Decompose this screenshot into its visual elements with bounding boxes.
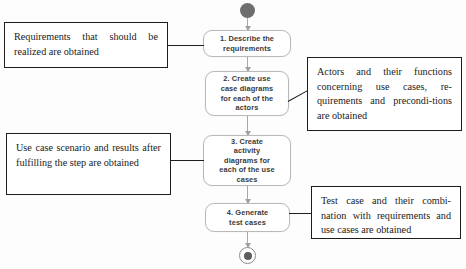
annotation-note-1-text: Requirements that should be realized are…	[14, 30, 158, 59]
initial-node-icon	[240, 3, 255, 18]
annotation-note-1: Requirements that should be realized are…	[4, 22, 168, 68]
activity-node-2[interactable]: 2. Create use case diagrams for each of …	[205, 71, 289, 116]
annotation-note-4-text: Test case and their combi-​nation with r…	[321, 194, 451, 238]
final-node-icon	[239, 247, 256, 264]
annotation-note-2: Use case scenario and results after fulf…	[6, 133, 171, 195]
activity-node-4-label: 4. Generate test cases	[227, 208, 268, 227]
flow-arrow-2-to-3	[247, 116, 248, 135]
activity-diagram-canvas: 1. Describe the requirements 2. Create u…	[0, 0, 466, 269]
annotation-note-2-text: Use case scenario and results after fulf…	[16, 141, 161, 170]
note-leader-1	[168, 45, 204, 46]
annotation-note-4: Test case and their combi-​nation with r…	[311, 186, 461, 239]
activity-node-3-label: 3. Create activity diagrams for each of …	[219, 137, 274, 185]
flow-arrow-1-to-2	[247, 57, 248, 71]
note-leader-2	[170, 160, 204, 161]
flow-arrow-start-to-1	[247, 18, 248, 30]
note-leader-4	[289, 213, 312, 214]
activity-node-1[interactable]: 1. Describe the requirements	[203, 30, 291, 57]
flow-arrow-4-to-end	[247, 232, 248, 247]
flow-arrow-3-to-4	[247, 186, 248, 203]
activity-node-3[interactable]: 3. Create activity diagrams for each of …	[203, 135, 291, 186]
activity-node-2-label: 2. Create use case diagrams for each of …	[221, 74, 274, 112]
activity-node-4[interactable]: 4. Generate test cases	[205, 203, 290, 232]
annotation-note-3: Actors and their functions concerning us…	[307, 57, 462, 131]
note-leader-3	[288, 90, 309, 102]
activity-node-1-label: 1. Describe the requirements	[220, 34, 274, 53]
annotation-note-3-text: Actors and their functions concerning us…	[317, 65, 452, 123]
